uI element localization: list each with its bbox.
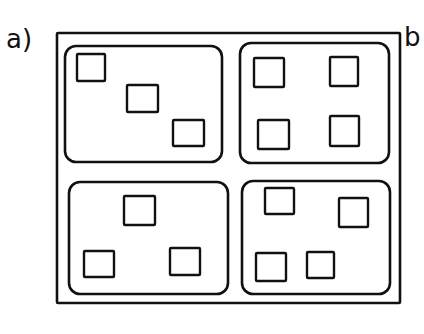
- square: [307, 252, 334, 278]
- nested-boxes-diagram: [0, 0, 424, 334]
- square: [330, 57, 358, 86]
- square: [173, 120, 204, 146]
- square: [124, 196, 155, 225]
- square: [265, 188, 294, 214]
- square: [84, 251, 114, 277]
- square: [258, 120, 289, 149]
- square: [256, 253, 286, 281]
- panel-top-right: [240, 43, 389, 163]
- square: [77, 54, 105, 81]
- square: [127, 85, 158, 112]
- square: [339, 198, 368, 227]
- panel-top-left: [65, 46, 222, 162]
- square: [330, 116, 359, 146]
- square: [254, 58, 284, 87]
- square: [170, 248, 200, 275]
